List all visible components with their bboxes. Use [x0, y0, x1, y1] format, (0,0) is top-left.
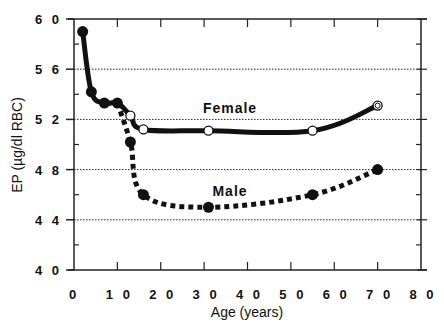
x-tick-label: 5 0 [279, 287, 306, 302]
x-tick-label: 8 0 [409, 287, 436, 302]
female-series-label: Female [203, 100, 257, 116]
data-point [99, 98, 110, 109]
male-data-point [138, 189, 149, 200]
female-data-point [204, 126, 213, 135]
male-series-label: Male [212, 183, 247, 199]
x-tick-label: 2 0 [149, 287, 176, 302]
y-tick-label: 5 2 [35, 112, 62, 127]
x-tick-label: 4 0 [236, 287, 263, 302]
data-point [112, 98, 123, 109]
male-data-point [125, 136, 136, 147]
female-data-point [308, 126, 317, 135]
x-tick-label: 3 0 [193, 287, 220, 302]
male-data-point [307, 189, 318, 200]
x-axis-title: Age (years) [211, 304, 283, 320]
y-tick-label: 5 6 [35, 62, 62, 77]
y-axis-ticks: 4 04 44 85 25 66 0 [35, 12, 427, 278]
male-data-point [203, 202, 214, 213]
plot-frame [68, 19, 427, 270]
y-tick-label: 6 0 [35, 12, 62, 27]
y-axis-title: EP (µg/dl RBC) [9, 97, 25, 193]
data-point [86, 86, 97, 97]
line-chart: 4 04 44 85 25 66 0 01 02 03 04 05 06 07 … [0, 0, 444, 334]
data-point [77, 26, 88, 37]
x-tick-label: 1 0 [106, 287, 133, 302]
x-axis-ticks: 01 02 03 04 05 06 07 08 0 [69, 19, 437, 302]
female-data-point [139, 125, 148, 134]
y-tick-label: 4 8 [35, 163, 62, 178]
x-tick-label: 0 [69, 287, 79, 302]
male-data-point [372, 164, 383, 175]
y-tick-label: 4 4 [35, 213, 62, 228]
y-tick-label: 4 0 [35, 263, 62, 278]
female-data-point [373, 101, 382, 110]
female-data-point [126, 111, 135, 120]
x-tick-label: 6 0 [323, 287, 350, 302]
x-tick-label: 7 0 [366, 287, 393, 302]
